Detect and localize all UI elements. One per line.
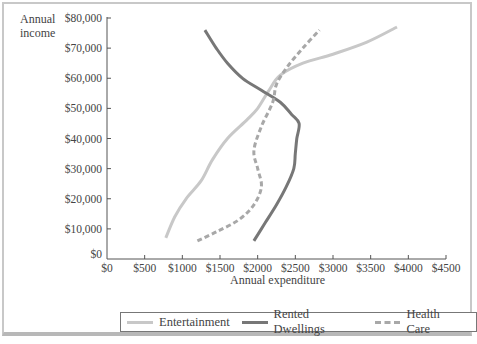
y-tick-label: $70,000 — [65, 42, 103, 55]
x-tick-label: $1000 — [168, 262, 197, 274]
series-lines — [166, 27, 397, 241]
y-tick-label: $0 — [91, 248, 103, 260]
series-entertainment — [166, 27, 397, 238]
y-tick-label: $20,000 — [65, 193, 103, 206]
legend-swatch-dashed — [375, 321, 401, 324]
y-tick-label: $60,000 — [65, 72, 103, 85]
series-rented-dwellings — [205, 30, 299, 241]
x-axis-title: Annual expenditure — [230, 273, 325, 287]
legend-swatch-solid-light — [127, 321, 153, 324]
y-axis-title-line1: Annual — [20, 12, 56, 26]
legend-label: Entertainment — [159, 315, 230, 330]
legend-item-health-care: Health Care — [375, 307, 466, 337]
ticks: $0$500$1000$1500$2000$2500$3000$3500$400… — [65, 12, 461, 274]
legend-item-entertainment: Entertainment — [127, 315, 230, 330]
x-tick-label: $0 — [101, 262, 113, 274]
x-tick-label: $4000 — [394, 262, 423, 274]
x-tick-label: $4500 — [432, 262, 461, 274]
legend-item-rented-dwellings: Rented Dwellings — [242, 307, 363, 337]
y-tick-label: $10,000 — [65, 223, 103, 236]
y-axis-title-line2: income — [20, 26, 55, 40]
legend-label: Health Care — [406, 307, 466, 337]
legend-label: Rented Dwellings — [274, 307, 363, 337]
y-tick-label: $30,000 — [65, 163, 103, 176]
axes — [107, 17, 446, 259]
chart-legend: Entertainment Rented Dwellings Health Ca… — [120, 312, 477, 332]
series-health-care — [197, 30, 319, 241]
y-tick-label: $50,000 — [65, 102, 103, 115]
x-tick-label: $3500 — [356, 262, 385, 274]
x-tick-label: $500 — [133, 262, 156, 274]
y-tick-label: $40,000 — [65, 133, 103, 146]
legend-swatch-solid-dark — [242, 321, 268, 324]
y-tick-label: $80,000 — [65, 12, 103, 25]
line-chart: $0$500$1000$1500$2000$2500$3000$3500$400… — [0, 0, 477, 344]
